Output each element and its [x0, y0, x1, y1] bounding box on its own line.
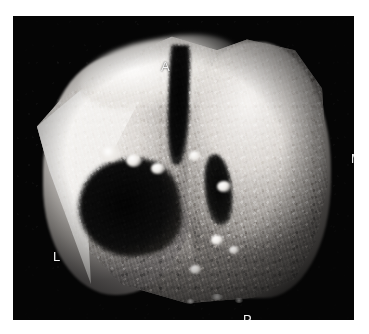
bright-nodule [211, 235, 223, 244]
bright-nodule [151, 163, 165, 174]
bright-nodule [217, 181, 231, 192]
edge-fleck [187, 299, 194, 303]
orientation-label-posterior: P [243, 313, 252, 320]
orientation-label-lateral: L [53, 250, 61, 263]
ultrasound-figure: A M L P [0, 0, 369, 334]
orientation-label-medial: M [351, 152, 354, 165]
ultrasound-scan-panel: A M L P [13, 16, 354, 320]
bright-nodule [190, 265, 201, 274]
bright-nodule [189, 151, 201, 161]
rendered-volume [31, 34, 331, 306]
orientation-label-anterior: A [161, 60, 170, 73]
edge-fleck [235, 298, 243, 303]
bright-nodule [126, 154, 143, 168]
bright-nodule [100, 146, 121, 162]
